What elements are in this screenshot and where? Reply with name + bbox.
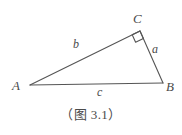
vertex-label-a: A bbox=[12, 79, 20, 92]
side-label-a: a bbox=[152, 43, 158, 55]
right-angle-marker-icon bbox=[132, 31, 143, 42]
side-label-b: b bbox=[73, 38, 79, 50]
figure-caption: （图 3.1） bbox=[0, 104, 182, 123]
vertex-label-b: B bbox=[166, 80, 174, 93]
side-label-c: c bbox=[97, 86, 102, 98]
side-b-line bbox=[30, 31, 140, 85]
vertex-label-c: C bbox=[133, 12, 142, 25]
geometry-figure: A B C a b c （图 3.1） bbox=[0, 0, 182, 135]
